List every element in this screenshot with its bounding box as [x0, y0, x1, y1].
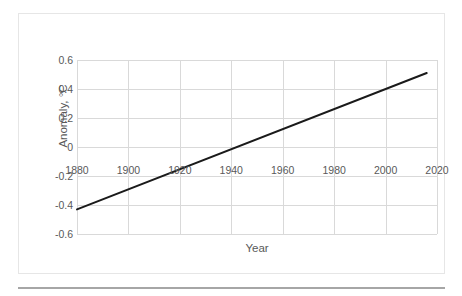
x-axis-tick-label: 1980 [306, 165, 362, 176]
plot-area [77, 60, 437, 234]
gridline-horizontal [77, 234, 437, 235]
x-axis-tick-labels: 18801900192019401960198020002020 [77, 165, 437, 179]
chart-card: 0.60.40.20-0.2-0.4-0.6 Anomaly, °C 18801… [18, 13, 445, 274]
x-axis-tick-label: 2000 [358, 165, 414, 176]
x-axis-tick-label: 1900 [100, 165, 156, 176]
x-axis-tick-label: 1880 [49, 165, 105, 176]
series-layer [77, 60, 437, 234]
gridline-vertical [437, 60, 438, 234]
x-axis-tick-label: 2020 [409, 165, 462, 176]
x-axis-tick-label: 1920 [152, 165, 208, 176]
y-axis-tick-label: -0.4 [33, 200, 73, 211]
bottom-divider-rule [18, 287, 445, 289]
y-axis-tick-label: -0.6 [33, 229, 73, 240]
x-axis-tick-label: 1940 [203, 165, 259, 176]
series-line-global-temperature-anomaly-trend [77, 73, 427, 209]
figure-root: 0.60.40.20-0.2-0.4-0.6 Anomaly, °C 18801… [0, 0, 462, 296]
y-axis-title: Anomaly, °C [57, 56, 69, 176]
x-axis-title: Year [77, 242, 437, 254]
x-axis-tick-label: 1960 [255, 165, 311, 176]
